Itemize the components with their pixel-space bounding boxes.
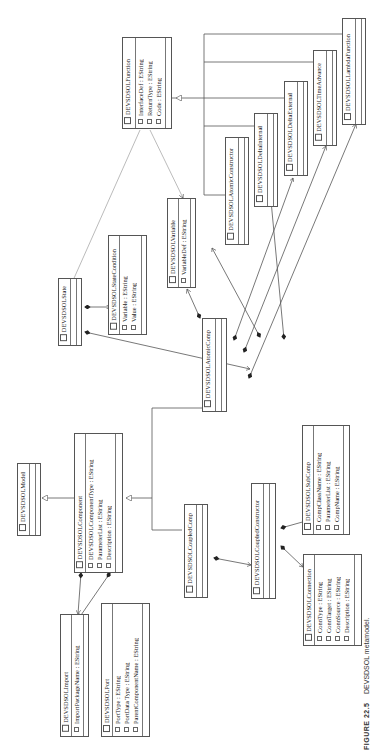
class-name: DEVSDSOLState [59, 286, 68, 343]
class-devsdsol-state[interactable]: DEVSDSOLState [58, 278, 82, 346]
class-icon [76, 561, 83, 568]
class-devsdsol-coupledcomp[interactable]: DEVSDSOLCoupledComp [184, 504, 208, 598]
class-name: DEVSDSOLConnection [304, 569, 313, 643]
class-icon [315, 134, 322, 141]
class-name: DEVSDSOLDeltaInternal [255, 126, 264, 204]
attribute-icon [115, 727, 120, 732]
attribute: VariableDef : EString [179, 220, 188, 275]
class-name: DEVSDSOLAtomicComp [203, 330, 212, 409]
class-devsdsol-subcomp[interactable]: DEVSDSOLSubComp CompClassName : EString … [302, 425, 350, 535]
attribute: PortData Type : EString [122, 663, 131, 724]
class-icon [186, 586, 193, 593]
attribute: DEVSDSOLComponentType : EString [86, 460, 95, 560]
attribute-icon [325, 525, 330, 530]
class-icon [60, 334, 67, 341]
attribute: ConnSource : EString [333, 577, 342, 633]
attribute: PortType : EString [113, 676, 122, 724]
attribute-icon [97, 563, 102, 568]
attribute-icon [88, 563, 93, 568]
class-icon [19, 524, 26, 531]
class-icon [253, 587, 260, 594]
class-icon [227, 233, 234, 240]
class-name: DEVSDSOLCoupledComp [185, 513, 194, 595]
attribute: CompName : EString [332, 467, 341, 522]
class-icon [169, 276, 176, 283]
class-devsdsol-variable[interactable]: DEVSDSOLVariable VariableDef : EString [167, 198, 196, 288]
class-name: DEVSDSOLTimeAdvance [314, 63, 323, 143]
class-devsdsol-coupledconstructor[interactable]: DEVSDSOLCoupledConstructor [251, 483, 276, 599]
attribute: ParameterList : EString [95, 500, 104, 560]
attribute: ReturnType : EString [145, 61, 154, 116]
class-devsdsol-deltaexternal[interactable]: DEVSDSOLDeltaExternal [284, 81, 308, 176]
attribute-icon [317, 636, 322, 641]
attribute-icon [316, 525, 321, 530]
attribute: Code : EString [154, 78, 163, 116]
class-name: DEVSDSOLCoupledConstructor [252, 500, 261, 596]
class-devsdsol-atomiccomp[interactable]: DEVSDSOLAtomicComp [202, 318, 227, 412]
attribute: ParentComponentName : EString [131, 638, 140, 724]
class-devsdsol-lambdafunction[interactable]: DEVSDSOLLambdaFunction [342, 18, 366, 125]
attribute: ParameterList : EString [323, 462, 332, 522]
class-devsdsol-deltainternal[interactable]: DEVSDSOLDeltaInternal [254, 113, 278, 207]
class-devsdsol-timeadvance[interactable]: DEVSDSOLTimeAdvance [313, 50, 337, 146]
class-icon [256, 195, 263, 202]
class-icon [304, 523, 311, 530]
class-name: DEVSDSOLPort [102, 679, 111, 734]
class-icon [110, 323, 117, 330]
attribute-icon [131, 325, 136, 330]
class-name: DEVSDSOLImport [61, 672, 70, 734]
attribute-icon [138, 119, 143, 124]
class-icon [286, 164, 293, 171]
attribute-icon [124, 727, 129, 732]
class-name: DEVSDSOLAtomicConstructor [226, 148, 235, 242]
attribute-icon [181, 278, 186, 283]
attribute-icon [326, 636, 331, 641]
attribute: Value : EString [129, 283, 138, 322]
attribute-icon [156, 119, 161, 124]
figure-caption-text: DEVSDSOL metamodel. [363, 618, 370, 694]
attribute-icon [147, 119, 152, 124]
class-devsdsol-connection[interactable]: DEVSDSOLConnection ConnType : EString Co… [303, 554, 362, 646]
class-icon [344, 113, 351, 120]
attribute-icon [344, 636, 349, 641]
attribute: Description : EString [104, 506, 113, 560]
attribute: CompClassName : EString [314, 453, 323, 522]
class-name: DEVSDSOLDeltaExternal [285, 93, 294, 173]
class-devsdsol-function[interactable]: DEVSDSOLFunction InterfaceDef : EString … [122, 37, 172, 129]
attribute: Variable : EString [120, 276, 129, 322]
class-devsdsol-model[interactable]: DEVSDSOLModel [17, 463, 41, 536]
class-devsdsol-atomicconstructor[interactable]: DEVSDSOLAtomicConstructor [225, 137, 249, 245]
class-name: DEVSDSOLModel [18, 472, 27, 533]
attribute: ImportPackageName : EString [72, 646, 81, 724]
attribute: ConnType : EString [315, 582, 324, 633]
class-icon [62, 725, 69, 732]
figure-caption: FIGURE 22.5 DEVSDSOL metamodel. [363, 560, 370, 750]
class-name: DEVSDSOLComponent [75, 496, 84, 570]
class-icon [124, 117, 131, 124]
class-name: DEVSDSOLSubComp [303, 462, 312, 532]
class-name: DEVSDSOLStateCondition [109, 249, 118, 332]
class-icon [204, 400, 211, 407]
attribute-icon [133, 727, 138, 732]
attribute-icon [106, 563, 111, 568]
class-icon [305, 634, 312, 641]
figure-label: FIGURE 22.5 [363, 702, 370, 750]
attribute-icon [74, 727, 79, 732]
class-devsdsol-statecondition[interactable]: DEVSDSOLStateCondition Variable : EStrin… [108, 235, 147, 335]
attribute-icon [334, 525, 339, 530]
attribute-icon [335, 636, 340, 641]
attribute: ConnTarget : EString [324, 579, 333, 633]
class-devsdsol-import[interactable]: DEVSDSOLImport ImportPackageName : EStri… [60, 614, 89, 737]
class-devsdsol-component[interactable]: DEVSDSOLComponent DEVSDSOLComponentType … [74, 433, 123, 573]
class-name: DEVSDSOLFunction [123, 59, 132, 126]
attribute-icon [122, 325, 127, 330]
class-name: DEVSDSOLLambdaFunction [343, 34, 352, 122]
attribute: InterfaceDef : EString [136, 59, 145, 116]
attribute: Description : EString [342, 579, 351, 633]
class-devsdsol-port[interactable]: DEVSDSOLPort PortType : EString PortData… [101, 603, 150, 737]
class-name: DEVSDSOLVariable [168, 220, 177, 285]
class-icon [103, 725, 110, 732]
